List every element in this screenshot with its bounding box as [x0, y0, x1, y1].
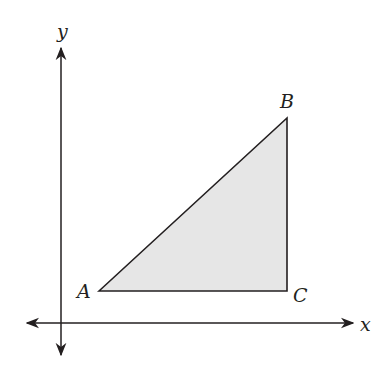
vertex-label-a: A: [75, 280, 91, 302]
y-axis-label: y: [56, 20, 68, 42]
triangle-abc: [99, 118, 287, 291]
coordinate-diagram: y x A B C: [0, 0, 385, 381]
vertex-label-c: C: [293, 284, 308, 306]
vertex-label-b: B: [279, 90, 294, 112]
x-axis-label: x: [360, 313, 371, 335]
